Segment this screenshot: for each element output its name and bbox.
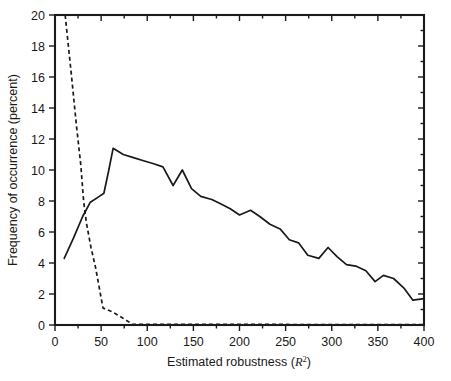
x-tick-label: 0 [52, 335, 59, 349]
y-tick-label: 8 [38, 195, 45, 209]
y-tick-label: 14 [31, 102, 45, 116]
y-tick-label: 12 [31, 133, 45, 147]
x-tick-label: 100 [137, 335, 158, 349]
y-axis-title: Frequency of occurrence (percent) [6, 74, 20, 266]
y-tick-label: 16 [31, 71, 45, 85]
y-tick-label: 10 [31, 164, 45, 178]
y-tick-label: 6 [38, 226, 45, 240]
y-tick-label: 18 [31, 40, 45, 54]
x-axis-title-symbol: R [294, 355, 303, 369]
x-tick-label: 200 [229, 335, 250, 349]
y-tick-label: 20 [31, 9, 45, 23]
chart-figure: 050100150200250300350400 024681012141618… [0, 0, 451, 381]
x-tick-label: 300 [321, 335, 342, 349]
x-axis-title: Estimated robustness (R2) [167, 354, 311, 369]
frequency-vs-robustness-line-chart: 050100150200250300350400 024681012141618… [0, 0, 451, 381]
x-tick-label: 350 [367, 335, 388, 349]
y-tick-label: 0 [38, 319, 45, 333]
x-tick-label: 400 [414, 335, 435, 349]
x-tick-label: 50 [94, 335, 108, 349]
x-tick-label: 150 [183, 335, 204, 349]
x-axis-title-close: ) [307, 355, 311, 369]
x-tick-label: 250 [275, 335, 296, 349]
y-tick-label: 2 [38, 288, 45, 302]
y-tick-label: 4 [38, 257, 45, 271]
x-axis-title-text: Estimated robustness ( [167, 355, 296, 369]
